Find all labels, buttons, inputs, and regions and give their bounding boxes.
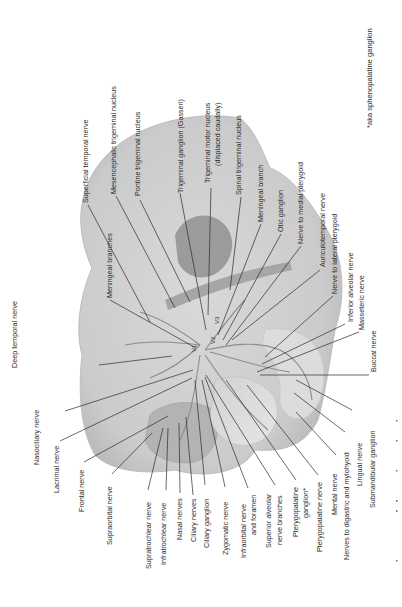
- division-mark-v1: V1: [191, 344, 197, 352]
- orbit-shape: [145, 403, 218, 463]
- label-lacrimal-nerve: Lacrimal nerve: [52, 446, 61, 493]
- label-otic-ganglion: Otic ganglion: [276, 190, 285, 232]
- label-inferior-alveolar-nerve: Inferior alveolar nerve: [346, 252, 355, 322]
- label-spinal-trigeminal-nucleus: Spinal trigeminal nucleus: [234, 115, 243, 195]
- label-ciliary-nerves: Ciliary nerves: [189, 498, 198, 542]
- label-mental-nerve: Mental nerve: [330, 473, 339, 515]
- label-trigeminal-motor-nucleus: Trigeminal motor nucleus: [203, 102, 212, 183]
- label-supratrochlear-nerve: Supratrochlear nerve: [144, 502, 153, 569]
- label-pterygopalatine-nerve: Pterygopalatine nerve: [315, 482, 324, 552]
- label-submandibular-ganglion: Submandibular ganglion: [368, 430, 377, 508]
- label-meningeal-branches: Meningeal branches: [105, 233, 114, 298]
- label-zygomatic-nerve: Zygomatic nerve: [221, 502, 230, 555]
- label-pontine-trigeminal-nucleus: Pontine trigeminal nucleus: [133, 111, 142, 196]
- label-nerves-to-digastric-mylohyoid: Nerves to digastric and mylohyoid: [342, 452, 351, 560]
- label-supraorbital-nerve: Supraorbital nerve: [105, 486, 114, 545]
- caption-artifact: [396, 420, 398, 562]
- label-lingual-nerve: Lingual nerve: [355, 443, 364, 486]
- label-pterygopalatine-ganglion-sub: ganglion*: [301, 488, 310, 518]
- label-superior-alveolar: Superior alveolar: [264, 493, 273, 548]
- label-nasociliary-nerve: Nasociliary nerve: [32, 410, 41, 465]
- label-nasal-nerves: Nasal nerves: [175, 498, 184, 540]
- label-ciliary-ganglion: Ciliary ganglion: [202, 499, 211, 548]
- division-mark-v2: V2: [210, 336, 216, 344]
- label-masseteric-nerve: Masseteric nerve: [357, 275, 366, 330]
- label-frontal-nerve: Frontal nerve: [77, 470, 86, 512]
- label-superficial-temporal-nerve: Superficial temporal nerve: [81, 120, 90, 204]
- label-nerve-to-lateral-pterygoid: Nerve to lateral pterygoid: [330, 214, 339, 294]
- label-infratrochlear-nerve: Infratrochlear nerve: [159, 503, 168, 565]
- label-trigeminal-motor-nucleus-sub: (displaced caudally): [213, 102, 222, 166]
- label-superior-alveolar-sub: nerve branches: [275, 495, 284, 545]
- label-mesencephalic-trigeminal-nucleus: Mesencephalic trigeminal nucleus: [109, 86, 118, 194]
- trigeminal-nerve-diagram: V1 V2 V3: [0, 0, 402, 607]
- label-infraorbital-nerve-sub: and foramen: [249, 495, 258, 535]
- label-trigeminal-ganglion: Trigeminal ganglion (Gasseri): [176, 99, 185, 193]
- division-mark-v3: V3: [214, 316, 220, 324]
- label-meningeal-branch: Meningeal branch: [256, 165, 265, 222]
- label-nerve-to-medial-pterygoid: Nerve to medial pterygoid: [296, 162, 305, 244]
- label-deep-temporal-nerve: Deep temporal nerve: [10, 301, 19, 368]
- label-auriculotemporal-nerve: Auriculotemporal nerve: [318, 193, 327, 267]
- label-pterygopalatine-ganglion: Pterygopalatine: [291, 487, 300, 537]
- footnote-sphenopalatine: *aka sphenopalatine ganglion: [365, 28, 374, 128]
- label-buccal-nerve: Buccal nerve: [369, 330, 378, 372]
- label-infraorbital-nerve: Infraorbital nerve: [239, 504, 248, 558]
